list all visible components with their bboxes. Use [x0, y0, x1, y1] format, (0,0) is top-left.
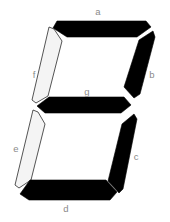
label-c: c — [134, 151, 139, 162]
segment-d — [20, 180, 117, 200]
label-d: d — [63, 203, 68, 214]
label-a: a — [95, 6, 101, 17]
segment-f — [32, 27, 62, 103]
segment-b — [124, 31, 155, 98]
label-g: g — [84, 86, 89, 97]
segment-g — [37, 97, 131, 113]
seven-segment-diagram: a b c d e f g — [0, 0, 170, 222]
label-b: b — [149, 69, 154, 80]
label-f: f — [33, 69, 36, 80]
segment-e — [15, 110, 45, 188]
segment-a — [53, 21, 151, 37]
label-e: e — [13, 143, 18, 154]
